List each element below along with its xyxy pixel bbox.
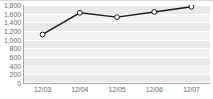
y-axis-tick-label: 800 (10, 45, 21, 52)
data-point-marker[interactable] (40, 32, 45, 37)
x-axis: 12/0312/0412/0512/0612/07 (24, 86, 210, 97)
y-axis-line (23, 5, 24, 84)
y-axis-tick-label: 1,200 (4, 28, 21, 35)
y-axis-tick-label: 600 (10, 54, 21, 61)
y-axis: 1,8001,6001,4001,2001,0008006004002000 (0, 5, 22, 83)
series-line (24, 5, 210, 83)
y-axis-tick-label: 400 (10, 62, 21, 69)
data-point-marker[interactable] (77, 10, 82, 15)
y-axis-tick-label: 200 (10, 71, 21, 78)
data-point-marker[interactable] (115, 15, 120, 20)
x-axis-tick-label: 12/05 (108, 86, 125, 93)
data-point-marker[interactable] (152, 10, 157, 15)
y-axis-tick-label: 0 (17, 80, 21, 87)
y-axis-tick-label: 1,000 (4, 36, 21, 43)
x-axis-line (23, 83, 210, 84)
y-axis-tick-label: 1,600 (4, 10, 21, 17)
plot-area (24, 5, 210, 83)
x-axis-tick-label: 12/03 (34, 86, 51, 93)
y-axis-tick-label: 1,400 (4, 19, 21, 26)
data-point-marker[interactable] (189, 5, 194, 9)
top-divider (0, 0, 213, 1)
line-chart: 1,8001,6001,4001,2001,0008006004002000 1… (0, 0, 213, 99)
x-axis-tick-label: 12/06 (146, 86, 163, 93)
y-axis-tick-label: 1,800 (4, 2, 21, 9)
series-polyline (43, 7, 192, 35)
x-axis-tick-label: 12/04 (71, 86, 88, 93)
x-axis-tick-label: 12/07 (183, 86, 200, 93)
